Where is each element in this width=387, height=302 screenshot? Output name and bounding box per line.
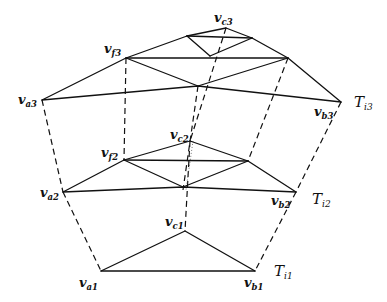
- edge-inner3-topright3: [210, 38, 252, 56]
- label-v-c1: vc1: [165, 214, 184, 231]
- label-v-a2: va2: [40, 185, 59, 202]
- level-t-i3: [42, 28, 341, 102]
- edge-c2-right2: [190, 141, 248, 161]
- hierarchical-triangulation-diagram: vc3 vf3 va3 vb3 vc2 vf2 va2 vb2 vc1 va1 …: [0, 0, 387, 302]
- edge-center3-right3: [198, 58, 288, 86]
- label-v-f3: vf3: [104, 41, 121, 58]
- edge-c1-b1: [185, 231, 255, 271]
- label-t-i3: Ti3: [354, 93, 373, 112]
- level-t-i2: [63, 141, 296, 192]
- edge-center2-right2: [183, 161, 248, 187]
- label-v-b3: vb3: [314, 104, 334, 121]
- label-t-i1: Ti1: [274, 262, 293, 281]
- label-v-a1: va1: [79, 275, 98, 292]
- edge-a1-c1: [101, 231, 185, 271]
- edge-c3-topright3: [226, 28, 252, 38]
- edge-f2-center2: [124, 160, 183, 187]
- edge-f3-topleft3: [126, 36, 187, 58]
- edge-a3-b3: [42, 86, 341, 102]
- label-v-c2: vc2: [170, 127, 189, 144]
- label-v-f2: vf2: [101, 145, 118, 162]
- label-t-i2: Ti2: [312, 190, 331, 209]
- dashed-right3-right2: [248, 58, 288, 161]
- vertex-labels: vc3 vf3 va3 vb3 vc2 vf2 va2 vb2 vc1 va1 …: [18, 10, 334, 292]
- label-v-c3: vc3: [214, 10, 233, 27]
- edge-f3-center3: [126, 58, 198, 86]
- edge-topleft3-c3: [187, 28, 226, 36]
- label-v-b2: vb2: [271, 193, 291, 210]
- edge-f2-right2: [124, 160, 248, 161]
- edge-a2-f2: [63, 160, 124, 192]
- dashed-a3-a2: [42, 100, 63, 192]
- level-t-i1: [101, 231, 255, 271]
- edge-right2-b2: [248, 161, 296, 192]
- label-v-b1: vb1: [244, 275, 263, 292]
- dashed-a2-a1: [63, 192, 101, 271]
- edge-topright3-right3: [252, 38, 288, 58]
- edge-a2-b2: [63, 187, 296, 192]
- label-v-a3: va3: [18, 92, 37, 109]
- edge-right3-b3: [288, 58, 341, 102]
- edge-topleft3-inner3: [187, 36, 210, 56]
- edge-topleft3-topright3: [187, 36, 252, 38]
- dashed-f3-f2: [124, 58, 126, 160]
